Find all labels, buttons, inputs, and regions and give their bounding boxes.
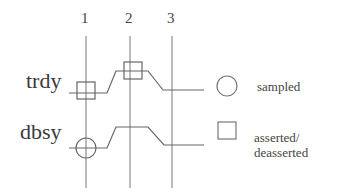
clock-label-2: 2 bbox=[125, 11, 133, 26]
legend-circle-icon bbox=[217, 76, 237, 96]
legend-label-sampled-text: sampled bbox=[257, 79, 300, 94]
timing-diagram-canvas bbox=[0, 0, 342, 193]
signal-label-dbsy: dbsy bbox=[20, 121, 62, 143]
signal-label-trdy: trdy bbox=[26, 70, 61, 92]
legend-label-asserted-line2: deasserted bbox=[254, 145, 308, 160]
clock-label-1: 1 bbox=[81, 11, 89, 26]
legend-label-asserted-line1: asserted/ bbox=[254, 130, 299, 145]
dbsy-waveform bbox=[69, 127, 204, 148]
legend-square-icon bbox=[218, 122, 236, 139]
clock-label-3: 3 bbox=[167, 11, 175, 26]
